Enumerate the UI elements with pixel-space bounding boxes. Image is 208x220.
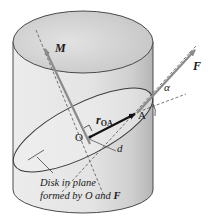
label-d: d	[117, 142, 123, 154]
caption-line-2: formed by O and F	[40, 190, 121, 201]
label-o: O	[75, 131, 83, 143]
caption-line-1: Disk in plane	[39, 177, 96, 188]
label-moment: M	[54, 41, 66, 55]
label-a: A	[138, 109, 146, 121]
label-alpha: α	[164, 81, 170, 93]
moment-diagram: M F α rOA O A d Disk in plane formed by …	[0, 0, 208, 220]
cylinder-top	[13, 11, 153, 73]
label-force: F	[192, 59, 201, 73]
point-o	[88, 135, 91, 138]
